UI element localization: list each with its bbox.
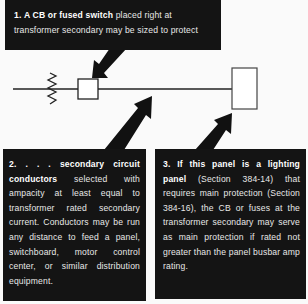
callout-2-body: selected with ampacity at least equal to… xyxy=(9,174,140,286)
callout-2-secondary-conductors: 2. . . . secondary circuit conductors se… xyxy=(3,149,146,301)
callout-3-body: (Section 384-14) that requires main prot… xyxy=(163,174,300,272)
callout-3-lighting-panel: 3. If this panel is a lighting panel (Se… xyxy=(155,149,306,299)
arrow-1-icon xyxy=(92,48,127,78)
callout-1-number: 1. xyxy=(14,10,21,20)
callout-1-cb-or-fused-switch: 1. A CB or fused switch placed right at … xyxy=(5,0,221,50)
callout-1-heading: A CB or fused switch xyxy=(24,10,113,20)
arrow-2-icon xyxy=(104,96,152,150)
callout-3-number: 3. xyxy=(163,159,170,169)
panel-box xyxy=(232,68,257,109)
callout-2-number: 2. . . . xyxy=(9,159,51,169)
circuit-breaker-box xyxy=(78,79,98,99)
arrow-3-icon xyxy=(195,113,232,150)
